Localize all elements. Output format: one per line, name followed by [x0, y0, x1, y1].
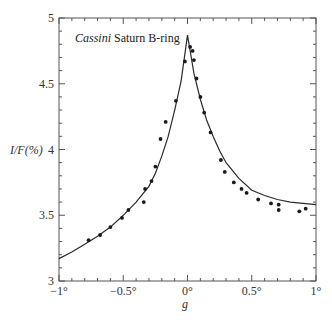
data-point: [142, 200, 146, 204]
data-point: [277, 203, 281, 207]
data-point: [297, 209, 301, 213]
data-point: [269, 202, 273, 206]
observation-points: [87, 45, 308, 242]
annotation-target: Saturn B-ring: [111, 31, 180, 45]
x-axis-label: g: [182, 297, 188, 311]
data-point: [192, 58, 196, 62]
model-fit-line: [59, 35, 316, 259]
data-point: [154, 165, 158, 169]
minor-ticks: [59, 18, 316, 281]
data-point: [98, 233, 102, 237]
data-point: [256, 198, 260, 202]
x-tick-labels: −1°−0.5°0°0.5°1°: [50, 284, 321, 298]
data-point: [188, 45, 192, 49]
plot-frame: [59, 18, 316, 281]
data-point: [195, 77, 199, 81]
data-point: [223, 170, 227, 174]
data-point: [240, 187, 244, 191]
plot-border: [59, 18, 316, 281]
data-point: [304, 207, 308, 211]
data-point: [245, 191, 249, 195]
data-point: [219, 158, 223, 162]
data-point: [120, 216, 124, 220]
major-ticks: [59, 18, 316, 281]
x-tick-label: 1°: [311, 284, 322, 298]
x-tick-label: −0.5°: [110, 284, 137, 298]
data-point: [159, 137, 163, 141]
chart-annotation: Cassini Saturn B-ring: [75, 31, 180, 45]
annotation-mission: Cassini: [75, 31, 111, 45]
data-point: [164, 120, 168, 124]
y-tick-label: 4: [48, 143, 54, 157]
x-tick-label: 0°: [182, 284, 193, 298]
y-tick-label: 3: [48, 274, 54, 288]
data-point: [232, 181, 236, 185]
x-tick-label: 0.5°: [242, 284, 262, 298]
data-point: [109, 225, 113, 229]
data-point: [199, 95, 203, 99]
y-axis-label: I/F(%): [9, 143, 43, 157]
data-point: [191, 49, 195, 53]
data-point: [183, 60, 187, 64]
data-point: [209, 131, 213, 135]
data-point: [174, 99, 178, 103]
y-tick-label: 4.5: [39, 77, 54, 91]
chart: −1°−0.5°0°0.5°1° 33.544.55 Cassini Satur…: [0, 0, 332, 320]
data-point: [87, 238, 91, 242]
data-point: [126, 208, 130, 212]
data-point: [277, 208, 281, 212]
data-point: [143, 187, 147, 191]
data-point: [202, 111, 206, 115]
y-tick-label: 5: [48, 11, 54, 25]
data-point: [150, 179, 154, 183]
y-tick-label: 3.5: [39, 208, 54, 222]
